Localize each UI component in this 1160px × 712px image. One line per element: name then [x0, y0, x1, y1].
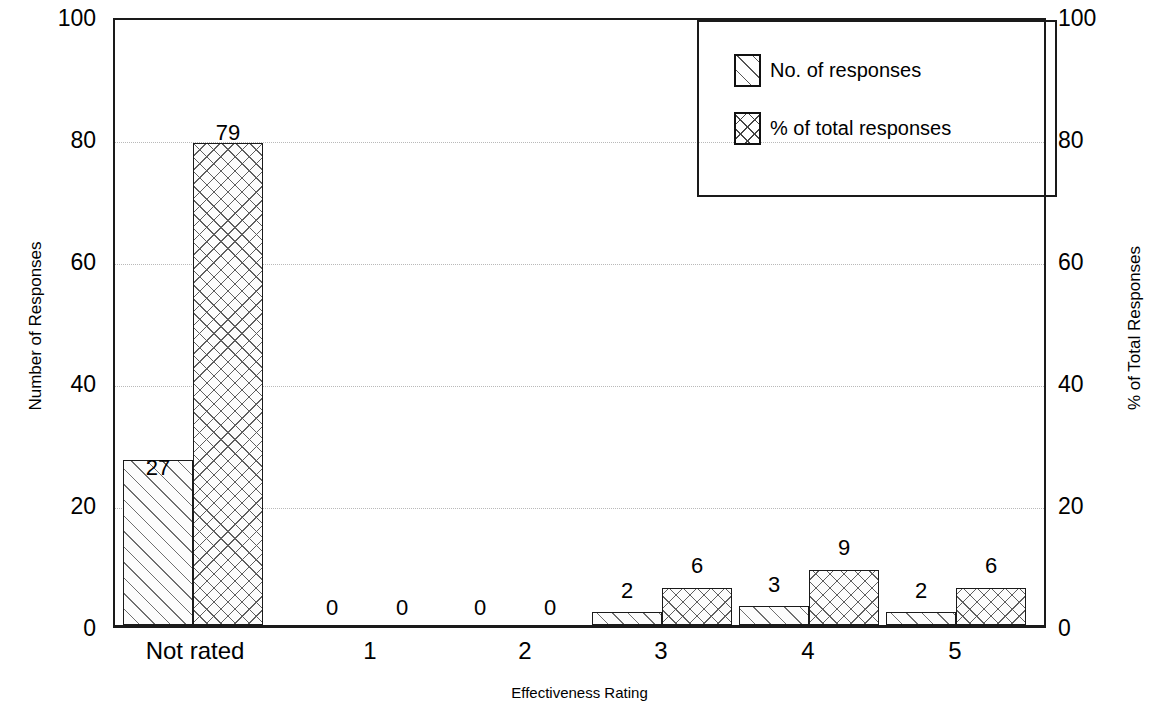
bar-label-responses-5: 2: [886, 578, 956, 604]
legend-label-responses: No. of responses: [770, 59, 921, 82]
x-tick-4: 4: [738, 637, 878, 665]
y-tick-left-20: 20: [0, 493, 96, 520]
y-tick-right-60: 60: [1058, 249, 1148, 276]
bar-label-percent-2: 0: [515, 595, 585, 621]
y-tick-right-20: 20: [1058, 493, 1148, 520]
legend: No. of responses % of total responses: [697, 20, 1057, 197]
x-tick-3: 3: [591, 637, 731, 665]
bar-label-responses-3: 2: [592, 578, 662, 604]
bar-responses-4: [739, 606, 809, 625]
y-tick-right-0: 0: [1058, 615, 1148, 642]
bar-label-percent-3: 6: [662, 553, 732, 579]
bar-label-percent-5: 6: [956, 553, 1026, 579]
bar-responses-not-rated: [123, 460, 193, 625]
x-tick-not-rated: Not rated: [90, 637, 300, 665]
y-tick-left-0: 0: [0, 615, 96, 642]
x-tick-1: 1: [300, 637, 440, 665]
bar-responses-5: [886, 612, 956, 625]
bar-percent-3: [662, 588, 732, 625]
legend-swatch-crosshatch-icon: [734, 112, 761, 145]
y-tick-left-80: 80: [0, 127, 96, 154]
bar-percent-not-rated: [193, 143, 263, 625]
x-axis-title: Effectiveness Rating: [113, 684, 1046, 701]
y-axis-right-title: % of Total Responses: [1125, 208, 1145, 448]
bar-label-responses-1: 0: [297, 595, 367, 621]
bar-label-responses-not-rated: 27: [123, 455, 193, 481]
bar-label-responses-2: 0: [445, 595, 515, 621]
bar-responses-3: [592, 612, 662, 625]
bar-label-percent-not-rated: 79: [193, 120, 263, 146]
y-tick-left-60: 60: [0, 249, 96, 276]
legend-entry-percent: % of total responses: [734, 112, 951, 145]
bar-label-responses-4: 3: [739, 572, 809, 598]
bar-chart: Number of Responses % of Total Responses…: [0, 0, 1160, 712]
legend-entry-responses: No. of responses: [734, 54, 921, 87]
y-tick-right-100: 100: [1058, 5, 1148, 32]
y-tick-left-100: 100: [0, 5, 96, 32]
bar-percent-5: [956, 588, 1026, 625]
y-tick-right-40: 40: [1058, 371, 1148, 398]
x-tick-2: 2: [455, 637, 595, 665]
bar-label-percent-4: 9: [809, 535, 879, 561]
bar-label-percent-1: 0: [367, 595, 437, 621]
legend-label-percent: % of total responses: [770, 117, 951, 140]
y-tick-right-80: 80: [1058, 127, 1148, 154]
legend-swatch-hatch-icon: [734, 54, 761, 87]
bar-percent-4: [809, 570, 879, 625]
y-tick-left-40: 40: [0, 371, 96, 398]
x-tick-5: 5: [885, 637, 1025, 665]
